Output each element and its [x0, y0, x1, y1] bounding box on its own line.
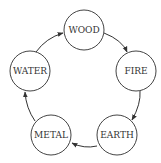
five-elements-cycle-diagram: WOOD FIRE EARTH METAL WATER: [0, 0, 161, 163]
node-fire: FIRE: [116, 51, 156, 91]
node-water-label: WATER: [13, 66, 47, 76]
edge-earth-to-metal: [72, 143, 97, 147]
node-earth-label: EARTH: [100, 130, 134, 140]
node-metal: METAL: [31, 115, 71, 155]
node-metal-label: METAL: [34, 130, 68, 140]
edge-metal-to-water: [25, 92, 35, 121]
edge-wood-to-fire: [104, 33, 127, 52]
node-water: WATER: [10, 51, 50, 91]
edge-water-to-wood: [36, 33, 63, 52]
node-fire-label: FIRE: [124, 66, 147, 76]
node-earth: EARTH: [97, 115, 137, 155]
node-wood-label: WOOD: [68, 25, 99, 35]
node-wood: WOOD: [64, 10, 104, 50]
edge-fire-to-earth: [132, 91, 140, 120]
